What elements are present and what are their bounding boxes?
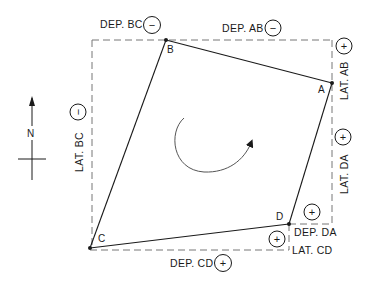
course-ab <box>166 40 332 83</box>
traverse-diagram: A B C D N DEP. BC − DEP. AB − + LAT. AB … <box>0 0 366 287</box>
lat-ab-sign: + <box>341 40 347 52</box>
station-d-label: D <box>276 211 283 222</box>
course-da <box>289 83 332 224</box>
dep-da-label: DEP. DA <box>294 226 337 238</box>
lat-da-label: LAT. DA <box>338 154 350 194</box>
course-cd <box>90 224 289 248</box>
lat-bc-sign: − <box>72 109 84 115</box>
station-b-dot <box>164 38 168 42</box>
projection-lines <box>90 40 332 250</box>
station-c-dot <box>88 246 92 250</box>
dep-cd-sign: + <box>220 257 226 269</box>
north-label: N <box>27 128 34 139</box>
dep-bc-sign: − <box>149 19 155 31</box>
north-arrow: N <box>18 96 46 180</box>
dep-da-sign: + <box>309 206 315 218</box>
station-a-label: A <box>318 84 325 95</box>
course-bc <box>90 40 166 248</box>
station-c-label: C <box>98 233 105 244</box>
station-points <box>88 38 334 250</box>
dep-cd-label: DEP. CD <box>170 257 213 269</box>
north-arrow-icon <box>29 96 35 106</box>
lat-ab-label: LAT. AB <box>338 61 350 100</box>
traverse-polygon <box>90 40 332 248</box>
lat-cd-sign: + <box>274 233 280 245</box>
dep-bc-label: DEP. BC <box>100 18 143 30</box>
lat-cd-label: LAT. CD <box>292 244 333 256</box>
dep-ab-label: DEP. AB <box>222 22 264 34</box>
station-b-label: B <box>167 44 174 55</box>
dep-ab-sign: − <box>270 22 276 34</box>
lat-da-sign: + <box>340 131 346 143</box>
station-d-dot <box>287 222 291 226</box>
station-a-dot <box>330 81 334 85</box>
lat-bc-label: LAT. BC <box>73 132 85 172</box>
clockwise-arrow-icon <box>175 118 251 172</box>
